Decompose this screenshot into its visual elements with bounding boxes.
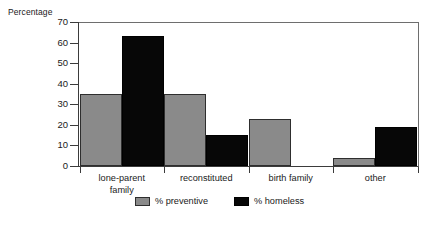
legend-label: % homeless	[254, 196, 304, 206]
x-axis-tick	[418, 167, 419, 173]
legend-swatch-homeless	[234, 197, 249, 206]
bar-homeless	[122, 36, 164, 166]
bar-preventive	[333, 158, 375, 166]
y-axis-tick-label: 50	[24, 58, 68, 68]
x-axis-label-line: lone-parent	[99, 172, 145, 184]
y-axis-tick-label: 20	[24, 120, 68, 130]
y-axis-tick-label: 0	[24, 161, 68, 171]
y-axis-tick	[70, 145, 79, 146]
bar-chart: Percentage 010203040506070 lone-parentfa…	[0, 0, 439, 225]
x-axis-label-line: birth family	[269, 172, 313, 184]
y-axis-title: Percentage	[8, 7, 52, 17]
chart-legend: % preventive% homeless	[0, 196, 439, 206]
x-axis-label-line: other	[365, 172, 386, 184]
x-axis-category-label: lone-parentfamily	[99, 172, 145, 196]
legend-item-homeless: % homeless	[234, 196, 304, 206]
bar-preventive	[80, 94, 122, 166]
y-axis-tick-label: 70	[24, 17, 68, 27]
y-axis-tick-label: 60	[24, 38, 68, 48]
bars-layer	[80, 22, 418, 166]
y-axis-tick-label: 30	[24, 100, 68, 110]
x-axis-category-label: reconstituted	[180, 172, 233, 184]
y-axis-tick	[70, 63, 79, 64]
bar-homeless	[206, 135, 248, 166]
legend-swatch-preventive	[135, 197, 150, 206]
y-axis-tick	[70, 22, 79, 23]
y-axis-tick	[70, 166, 79, 167]
y-axis-tick-label: 10	[24, 141, 68, 151]
x-axis-category-label: birth family	[269, 172, 313, 184]
legend-label: % preventive	[155, 196, 208, 206]
legend-item-preventive: % preventive	[135, 196, 208, 206]
bar-preventive	[249, 119, 291, 166]
y-axis-tick	[70, 43, 79, 44]
y-axis-tick	[70, 84, 79, 85]
x-axis-label-line: reconstituted	[180, 172, 233, 184]
y-axis-tick-label: 40	[24, 79, 68, 89]
y-axis-tick	[70, 104, 79, 105]
bar-preventive	[164, 94, 206, 166]
x-axis-label-line: family	[99, 184, 145, 196]
bar-homeless	[375, 127, 417, 166]
y-axis-tick	[70, 125, 79, 126]
x-axis-category-label: other	[365, 172, 386, 184]
